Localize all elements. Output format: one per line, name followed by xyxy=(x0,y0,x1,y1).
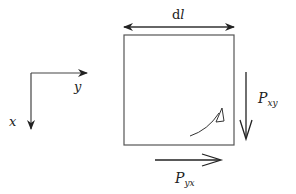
shear-element-diagram: dl y x Pxy Pyx xyxy=(0,0,296,194)
width-label: dl xyxy=(172,7,185,22)
width-dimension: dl xyxy=(124,7,234,27)
square-element xyxy=(124,35,234,145)
bottom-force-label: Pyx xyxy=(174,170,195,188)
rotation-arrow-icon xyxy=(190,108,224,136)
x-axis-label: x xyxy=(9,114,17,129)
coordinate-axes: y x xyxy=(9,73,87,129)
right-shear-force: Pxy xyxy=(240,72,278,139)
right-force-label: Pxy xyxy=(257,90,278,108)
y-axis-label: y xyxy=(73,79,82,94)
bottom-shear-force: Pyx xyxy=(155,154,221,188)
